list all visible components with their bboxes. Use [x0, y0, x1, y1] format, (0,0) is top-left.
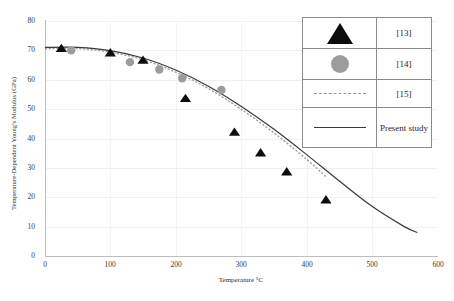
x-tick-0: 0: [30, 261, 60, 269]
legend-row-present-study: Present study: [303, 108, 431, 147]
dashed-line-icon: [303, 80, 377, 107]
legend-row-13: [13]: [303, 18, 431, 49]
circle-marker-icon: [303, 49, 377, 79]
x-tick-100: 100: [95, 261, 125, 269]
x-tick-600: 600: [423, 261, 453, 269]
y-axis-title: Temperature-Dependent Young's Modulus (G…: [10, 64, 17, 224]
x-tick-500: 500: [357, 261, 387, 269]
legend: [13] [14] [15] Present study: [302, 17, 432, 148]
x-tick-400: 400: [292, 261, 322, 269]
legend-row-15: [15]: [303, 80, 431, 108]
x-tick-300: 300: [226, 261, 256, 269]
legend-label-13: [13]: [377, 18, 431, 48]
chart-figure: 80 70 60 50 40 30 20 10 0 0 100 200 300 …: [0, 0, 454, 301]
legend-label-present-study: Present study: [377, 108, 431, 147]
x-tick-200: 200: [161, 261, 191, 269]
x-axis-title: Temperature °C: [45, 276, 437, 284]
legend-label-15: [15]: [377, 80, 431, 107]
legend-label-14: [14]: [377, 49, 431, 79]
triangle-marker-icon: [303, 18, 377, 48]
legend-row-14: [14]: [303, 49, 431, 80]
solid-line-icon: [303, 108, 377, 147]
